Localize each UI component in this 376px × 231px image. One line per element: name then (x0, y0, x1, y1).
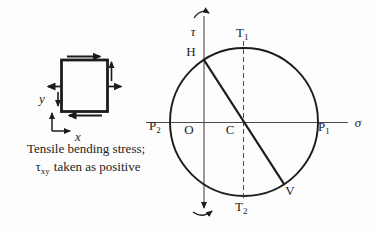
caption-line2: τxytaken as positive (36, 159, 141, 176)
label-T1-base: T (236, 25, 244, 40)
point-label-H: H (186, 44, 195, 59)
label-P1-base: P (318, 119, 325, 134)
point-label-O: O (184, 122, 193, 137)
caption-tau-subscript: xy (41, 166, 51, 176)
mohr-circle-plot: τ σ H V O C T1 T2 P1 P2 (146, 11, 362, 216)
rotation-arrow-top (194, 11, 209, 18)
mohr-circle-figure: y x Tensile bending stress; τxytaken as … (0, 0, 376, 231)
y-axis-label: y (37, 91, 45, 106)
figure-stage: y x Tensile bending stress; τxytaken as … (0, 0, 376, 231)
caption-line2-rest: taken as positive (54, 159, 141, 174)
label-P2-base: P (149, 118, 156, 133)
stress-element: y x Tensile bending stress; τxytaken as … (27, 57, 145, 177)
point-label-C: C (226, 122, 235, 137)
label-T2-base: T (235, 199, 243, 214)
rotation-arrow-bottom (193, 211, 212, 215)
stress-element-square (62, 60, 108, 112)
label-P2-sub: 2 (156, 125, 161, 135)
label-T2-sub: 2 (243, 206, 248, 216)
tau-axis-label: τ (191, 24, 197, 39)
point-label-T2: T2 (235, 199, 247, 216)
label-P1-sub: 1 (325, 126, 330, 136)
point-label-T1: T1 (236, 25, 248, 42)
coordinate-axes: y x (37, 91, 81, 144)
label-T1-sub: 1 (244, 32, 249, 42)
point-label-V: V (285, 183, 295, 198)
point-label-P1: P1 (318, 119, 330, 136)
caption-line1: Tensile bending stress; (27, 141, 145, 156)
sigma-axis-label: σ (355, 115, 362, 130)
point-label-P2: P2 (149, 118, 161, 135)
